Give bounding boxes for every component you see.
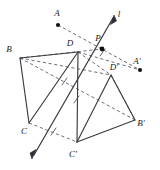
label-A-prime: A' (132, 56, 141, 66)
label-D: D (66, 38, 74, 48)
geometry-figure: A B C D A' B' C' D' P l (0, 0, 160, 170)
point-A-dot (56, 23, 60, 27)
line-l (34, 18, 113, 155)
point-A-prime-dot (138, 68, 142, 72)
label-A: A (53, 8, 60, 18)
label-C: C (21, 126, 28, 136)
label-D-prime: D' (109, 62, 119, 72)
edge-C-prime-B-prime (77, 120, 135, 142)
label-B: B (6, 44, 12, 54)
line-l-group (30, 15, 117, 159)
tick-C-C-prime (51, 128, 56, 135)
geometry-canvas: A B C D A' B' C' D' P l (0, 0, 160, 170)
tick-B-B-prime (74, 96, 79, 103)
point-P-dot (100, 47, 105, 52)
edge-B-D (20, 52, 78, 58)
label-P: P (94, 33, 101, 43)
label-C-prime: C' (69, 149, 78, 159)
edge-C-D (29, 52, 78, 123)
label-line-l: l (118, 9, 121, 19)
connector-B-diagonal-lower (20, 58, 111, 75)
edge-D-prime-C-prime (77, 75, 111, 142)
label-B-prime: B' (137, 118, 145, 128)
vertex-label-group: A B C D A' B' C' D' P l (6, 8, 146, 159)
edge-B-C (20, 58, 29, 123)
